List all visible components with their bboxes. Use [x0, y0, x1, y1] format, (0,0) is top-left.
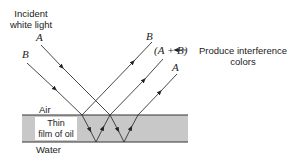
air-label: Air — [39, 104, 51, 115]
ray-a-outgoing-label: A — [172, 62, 179, 73]
combined-ray-a-plus-b — [110, 59, 163, 115]
ray-a-incident-label: A — [36, 32, 43, 43]
water-label: Water — [36, 144, 61, 155]
film-label: Thin film of oil — [35, 118, 77, 139]
incident-ray-b — [27, 63, 82, 115]
ray-a-plus-b-label: (A + B) — [154, 45, 188, 56]
ray-b-outgoing-label: B — [146, 31, 153, 42]
interference-annotation: Produce interference colors — [186, 45, 300, 67]
reflected-ray-b — [82, 42, 152, 115]
incident-ray-a — [41, 45, 110, 115]
incident-label: Incident white light — [8, 8, 54, 30]
ray-b-incident-label: B — [22, 49, 29, 60]
